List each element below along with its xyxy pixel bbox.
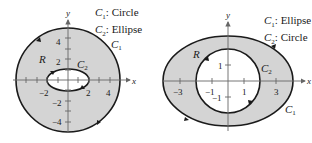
- x-axis-label: x: [131, 76, 136, 86]
- region-label: R: [192, 48, 200, 60]
- y-tick-label: −1: [212, 93, 222, 103]
- legend-entry-c1: C1: Circle: [95, 6, 142, 23]
- y-tick-label: −2: [52, 98, 62, 108]
- x-tick-label: 4: [106, 88, 111, 98]
- legend-entry-c2: C2: Ellipse: [95, 23, 142, 40]
- y-tick-label: 2: [56, 57, 61, 67]
- y-axis-label: y: [225, 10, 230, 20]
- curve-label-c1: C1: [285, 103, 296, 117]
- right-legend: C1: Ellipse C2: Circle: [264, 14, 311, 48]
- y-tick-label: 4: [56, 37, 61, 47]
- legend-entry-c1: C1: Ellipse: [264, 14, 311, 31]
- y-tick-label: −4: [52, 117, 62, 127]
- x-tick-label: 3: [274, 87, 279, 97]
- y-tick-label: 1: [218, 61, 223, 71]
- legend-entry-c2: C2: Circle: [264, 31, 311, 48]
- x-tick-label: −3: [173, 87, 183, 97]
- x-axis-label: x: [306, 76, 311, 86]
- x-tick-label: −2: [39, 88, 49, 98]
- x-tick-label: 1: [242, 87, 247, 97]
- c1-direction-arrow: [184, 117, 189, 121]
- y-axis-label: y: [65, 8, 70, 18]
- x-tick-label: 2: [86, 88, 91, 98]
- left-legend: C1: Circle C2: Ellipse: [95, 6, 142, 40]
- region-label: R: [38, 53, 46, 65]
